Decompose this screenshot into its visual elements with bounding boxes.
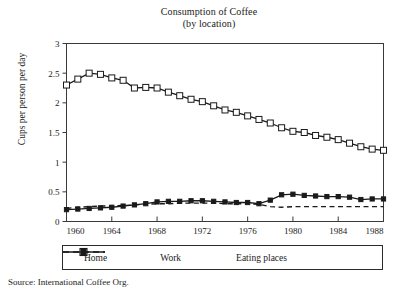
x-tick-label: 1988 (366, 226, 385, 236)
data-point-home (301, 130, 307, 136)
x-tick-label: 1972 (193, 226, 211, 236)
coffee-consumption-figure: Consumption of Coffee (by location) Cups… (0, 0, 418, 295)
data-point-home (188, 96, 194, 102)
legend-swatch-eating-places (63, 246, 105, 258)
y-tick-label: 1 (55, 158, 60, 168)
data-point-home (131, 85, 137, 91)
data-point-home (211, 103, 217, 109)
data-point-work (336, 194, 340, 198)
y-tick-label: 1.5 (48, 128, 60, 138)
plot-area: 00.511.522.53196019641968197219761980198… (0, 0, 418, 245)
data-point-work (268, 198, 272, 202)
data-point-home (222, 107, 228, 113)
y-tick-label: 2 (55, 98, 60, 108)
data-point-home (313, 132, 319, 138)
x-tick-label: 1964 (103, 226, 122, 236)
data-point-home (154, 85, 160, 91)
data-point-work (200, 199, 204, 203)
legend-item-eating-places[interactable]: Eating places (229, 253, 287, 263)
data-point-work (359, 197, 363, 201)
data-point-home (233, 109, 239, 115)
legend-label-eating-places: Eating places (236, 253, 287, 263)
y-tick-label: 3 (55, 39, 60, 49)
data-point-home (177, 93, 183, 99)
x-tick-label: 1984 (329, 226, 348, 236)
data-point-work (370, 197, 374, 201)
source-note: Source: International Coffee Org. (8, 277, 129, 287)
data-point-home (120, 77, 126, 83)
y-tick-label: 0.5 (48, 187, 60, 197)
data-point-work (166, 199, 170, 203)
data-point-work (291, 192, 295, 196)
data-point-home (75, 76, 81, 82)
x-tick-label: 1976 (239, 226, 258, 236)
data-point-work (381, 197, 385, 201)
data-point-work (325, 194, 329, 198)
data-point-home (199, 99, 205, 105)
x-tick-label: 1980 (284, 226, 303, 236)
data-point-home (358, 144, 364, 150)
data-point-home (97, 71, 103, 77)
legend-item-work[interactable]: Work (153, 253, 181, 263)
data-point-home (290, 128, 296, 134)
data-point-home (245, 113, 251, 119)
data-point-home (109, 75, 115, 81)
data-point-home (347, 140, 353, 146)
data-point-home (86, 70, 92, 76)
data-point-work (313, 194, 317, 198)
data-point-work (280, 193, 284, 197)
legend-label-work: Work (160, 253, 181, 263)
data-point-home (369, 146, 375, 152)
data-point-work (189, 199, 193, 203)
data-point-home (267, 120, 273, 126)
y-tick-label: 2.5 (48, 69, 60, 79)
data-point-home (256, 116, 262, 122)
y-tick-label: 0 (55, 217, 60, 227)
x-tick-label: 1960 (67, 226, 86, 236)
data-point-home (324, 134, 330, 140)
data-point-home (165, 89, 171, 95)
data-point-work (302, 193, 306, 197)
data-point-home (381, 147, 387, 153)
data-point-home (143, 84, 149, 90)
data-point-home (279, 125, 285, 131)
data-point-home (64, 82, 70, 88)
data-point-home (335, 137, 341, 143)
data-point-work (347, 195, 351, 199)
x-tick-label: 1968 (148, 226, 167, 236)
chart-legend: Home Work Eating places (62, 245, 383, 270)
